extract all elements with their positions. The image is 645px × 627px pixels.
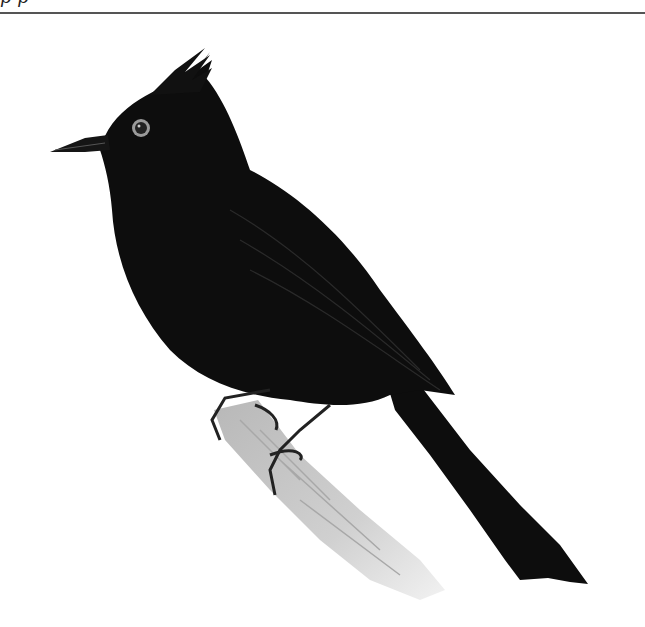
- bird-illustration: [0, 0, 645, 627]
- tail: [380, 360, 588, 584]
- branch: [214, 400, 445, 600]
- eye: [132, 119, 150, 137]
